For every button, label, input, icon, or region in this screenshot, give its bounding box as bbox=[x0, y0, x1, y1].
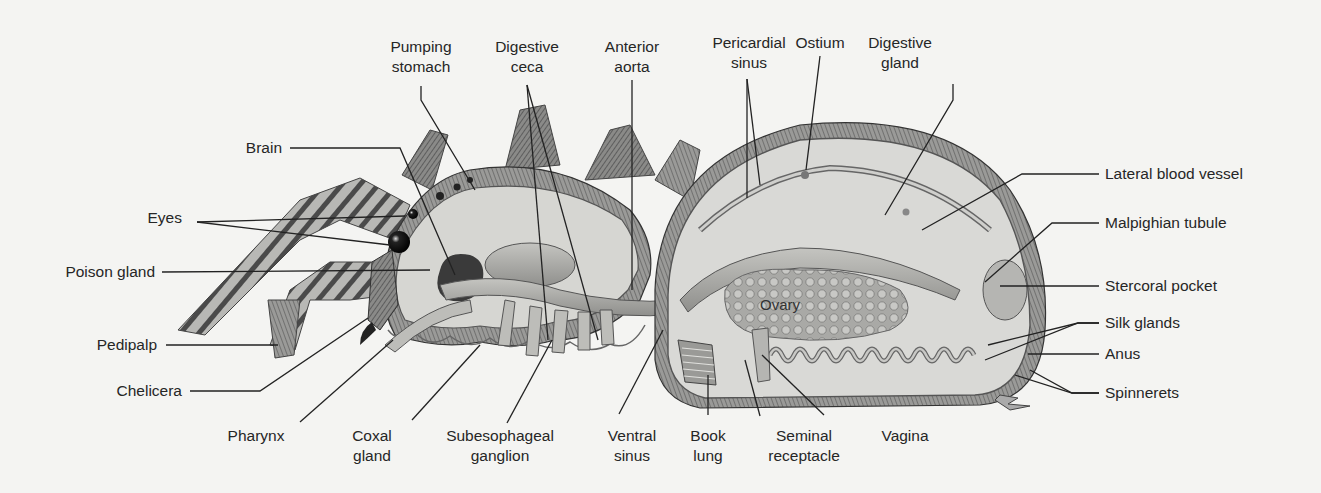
label-seminal-receptacle: Seminal receptacle bbox=[768, 426, 840, 466]
label-pumping-stomach: Pumping stomach bbox=[390, 37, 451, 77]
label-silk-glands: Silk glands bbox=[1105, 313, 1180, 333]
label-coxal-gland: Coxal gland bbox=[352, 426, 392, 466]
spider-anatomy-diagram: Pumping stomach Digestive ceca Anterior … bbox=[0, 0, 1321, 493]
label-poison-gland: Poison gland bbox=[65, 262, 155, 282]
spider-illustration bbox=[0, 0, 1321, 493]
label-chelicera: Chelicera bbox=[117, 381, 182, 401]
label-pedipalp: Pedipalp bbox=[97, 335, 157, 355]
label-spinnerets: Spinnerets bbox=[1105, 383, 1179, 403]
label-ostium: Ostium bbox=[795, 33, 844, 53]
label-lateral-blood-vessel: Lateral blood vessel bbox=[1105, 164, 1243, 184]
abdomen bbox=[655, 123, 1046, 410]
label-vagina: Vagina bbox=[881, 426, 928, 446]
label-stercoral-pocket: Stercoral pocket bbox=[1105, 276, 1217, 296]
label-eyes: Eyes bbox=[148, 208, 182, 228]
label-digestive-gland: Digestive gland bbox=[868, 33, 932, 73]
label-pharynx: Pharynx bbox=[228, 426, 285, 446]
label-ventral-sinus: Ventral sinus bbox=[608, 426, 656, 466]
label-pericardial-sinus: Pericardial sinus bbox=[712, 33, 785, 73]
label-brain: Brain bbox=[246, 138, 282, 158]
label-anterior-aorta: Anterior aorta bbox=[605, 37, 659, 77]
label-subesophageal-ganglion: Subesophageal ganglion bbox=[446, 426, 554, 466]
label-ovary: Ovary bbox=[760, 296, 800, 313]
label-anus: Anus bbox=[1105, 344, 1140, 364]
label-digestive-ceca: Digestive ceca bbox=[495, 37, 559, 77]
label-malpighian-tubule: Malpighian tubule bbox=[1105, 213, 1227, 233]
label-book-lung: Book lung bbox=[690, 426, 725, 466]
